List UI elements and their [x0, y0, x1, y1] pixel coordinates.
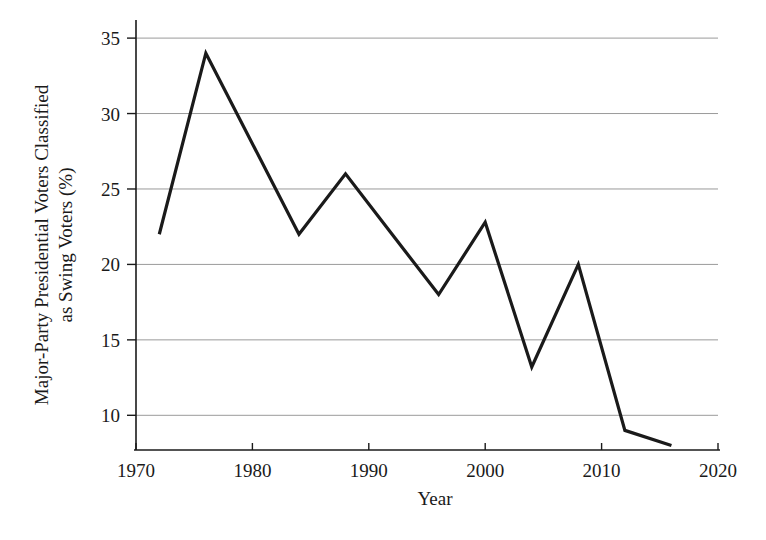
x-tick-label-1990: 1990 [350, 460, 388, 481]
x-tick-label-1980: 1980 [233, 460, 271, 481]
y-axis-title-line-1: Major-Party Presidential Voters Classifi… [31, 84, 52, 405]
x-axis-title: Year [417, 488, 453, 509]
y-tick-label-30: 30 [101, 104, 120, 125]
chart-figure: 197019801990200020102020 101520253035 Ye… [0, 0, 766, 540]
x-tick-label-2020: 2020 [699, 460, 737, 481]
x-tick-label-1970: 1970 [117, 460, 155, 481]
x-axis-ticks [136, 443, 718, 450]
x-axis-tick-labels: 197019801990200020102020 [117, 460, 737, 481]
gridlines [136, 38, 718, 415]
y-tick-label-20: 20 [101, 254, 120, 275]
y-tick-label-35: 35 [101, 28, 120, 49]
x-tick-label-2000: 2000 [466, 460, 504, 481]
y-tick-label-10: 10 [101, 405, 120, 426]
y-axis-ticks [127, 38, 136, 415]
y-axis-title-line-2: as Swing Voters (%) [55, 168, 77, 323]
line-chart: 197019801990200020102020 101520253035 Ye… [0, 0, 766, 540]
x-tick-label-2010: 2010 [583, 460, 621, 481]
y-tick-label-25: 25 [101, 179, 120, 200]
y-axis-tick-labels: 101520253035 [101, 28, 120, 426]
data-series-line [159, 53, 671, 445]
y-tick-label-15: 15 [101, 330, 120, 351]
swing-voters-trend-line [159, 53, 671, 445]
